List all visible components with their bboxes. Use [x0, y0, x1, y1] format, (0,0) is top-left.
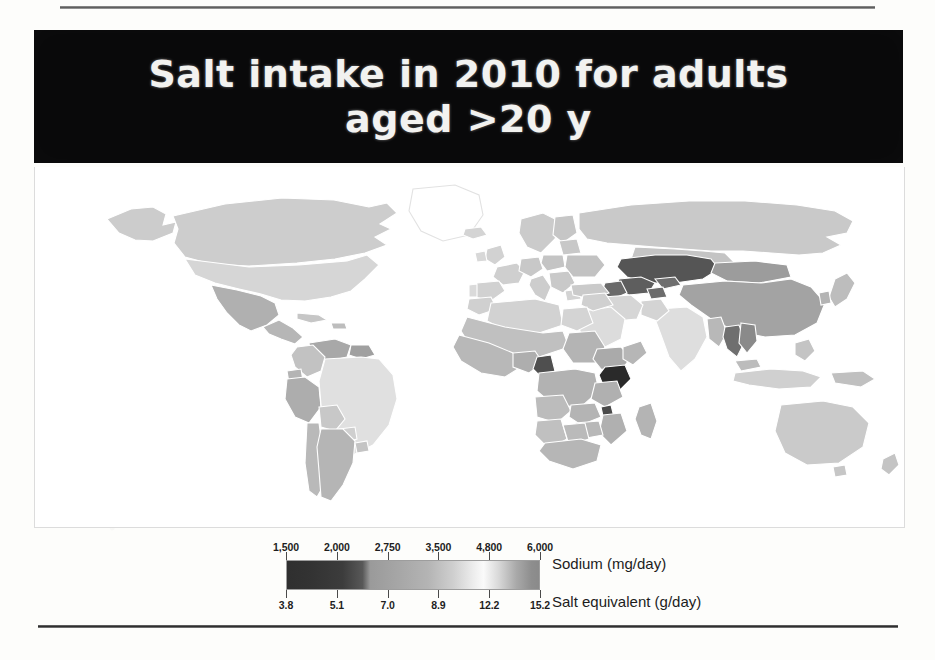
legend-tick-top: [388, 552, 389, 560]
legend-sodium-tick-label: 2,000: [324, 541, 350, 553]
region-korea: [819, 291, 831, 305]
legend-tick-bottom: [337, 590, 338, 598]
legend-sodium-tick-label: 4,800: [476, 541, 502, 553]
figure-title-line1: Salt intake in 2010 for adults: [148, 52, 788, 96]
legend-salt-tick-label: 3.8: [279, 599, 293, 611]
region-portugal: [469, 284, 477, 297]
legend-colorbar: [286, 560, 540, 590]
figure-title-banner: Salt intake in 2010 for adults aged >20 …: [34, 30, 903, 163]
region-tasmania: [833, 465, 847, 477]
legend-tick-top: [286, 552, 287, 560]
legend-tick-top: [337, 552, 338, 560]
region-hispaniola: [331, 323, 347, 329]
figure-page: Salt intake in 2010 for adults aged >20 …: [0, 0, 935, 660]
bottom-horizontal-rule: [38, 625, 898, 628]
legend-sodium-tick-label: 1,500: [273, 541, 299, 553]
legend-salt-tick-label: 15.2: [530, 599, 550, 611]
legend-sodium-tick-label: 3,500: [426, 541, 452, 553]
map-legend: 1,5002,0002,7503,5004,8006,000 3.85.17.0…: [286, 541, 886, 617]
world-map-panel: [34, 167, 905, 528]
world-choropleth-map: [35, 167, 904, 527]
region-tajikistan: [647, 287, 667, 299]
legend-sodium-axis-label: Sodium (mg/day): [552, 555, 666, 572]
legend-sodium-tick-label: 6,000: [527, 541, 553, 553]
figure-title-line2: aged >20 y: [345, 97, 592, 141]
figure-title: Salt intake in 2010 for adults aged >20 …: [128, 52, 808, 142]
region-uruguay: [355, 441, 369, 453]
top-horizontal-rule: [60, 6, 875, 9]
legend-salt-tick-label: 5.1: [330, 599, 344, 611]
legend-sodium-tick-label: 2,750: [375, 541, 401, 553]
legend-salt-axis-label: Salt equivalent (g/day): [552, 593, 701, 610]
legend-tick-top: [438, 552, 439, 560]
legend-salt-tick-label: 8.9: [431, 599, 445, 611]
legend-salt-tick-label: 12.2: [479, 599, 499, 611]
legend-tick-bottom: [286, 590, 287, 598]
legend-tick-bottom: [388, 590, 389, 598]
region-ireland: [475, 251, 487, 262]
legend-salt-tick-label: 7.0: [380, 599, 394, 611]
legend-colorbar-wrap: [286, 560, 540, 590]
legend-tick-bottom: [489, 590, 490, 598]
legend-tick-top: [540, 552, 541, 560]
legend-tick-top: [489, 552, 490, 560]
legend-tick-bottom: [438, 590, 439, 598]
region-baltics: [559, 239, 581, 255]
legend-tick-bottom: [540, 590, 541, 598]
